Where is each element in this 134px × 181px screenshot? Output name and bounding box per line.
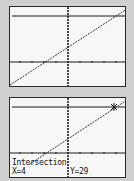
x-value: X=4 (12, 168, 26, 176)
graph-screen-2: Intersection X=4 Y=29 (9, 97, 126, 178)
graph-plot-1 (10, 7, 126, 87)
intersection-label: Intersection (12, 159, 66, 167)
y-value: Y=29 (70, 168, 88, 176)
graph-screen-1 (9, 6, 126, 87)
